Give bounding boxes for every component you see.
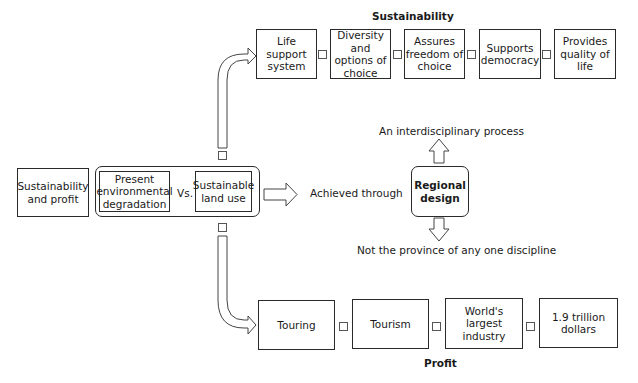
connector-square	[318, 50, 327, 59]
connector-square	[526, 322, 535, 331]
connector-square-upper	[218, 151, 227, 160]
box-sustainability-and-profit: Sustainability and profit	[17, 168, 89, 217]
box-diversity-options: Diversity and options of choice	[330, 29, 391, 79]
sustainability-title: Sustainability	[372, 10, 454, 22]
box-present-environmental-degradation: Present environmental degradation	[99, 171, 170, 212]
box-provides-quality-of-life: Provides quality of life	[554, 29, 616, 79]
box-regional-design: Regional design	[411, 166, 469, 217]
down-arrow-icon	[429, 218, 449, 241]
box-tourism: Tourism	[352, 299, 429, 349]
curved-arrow-down-icon	[218, 236, 256, 334]
connector-square	[432, 322, 441, 331]
interdisciplinary-label: An interdisciplinary process	[379, 125, 524, 137]
box-sustainable-land-use: Sustainable land use	[195, 171, 252, 212]
box-life-support-system: Life support system	[256, 29, 317, 79]
box-assures-freedom: Assures freedom of choice	[404, 29, 465, 79]
curved-arrow-up-icon	[218, 48, 256, 148]
connector-square-lower	[218, 223, 227, 232]
achieved-through-label: Achieved through	[310, 187, 403, 199]
connector-square	[542, 50, 551, 59]
box-trillion-dollars: 1.9 trillion dollars	[539, 298, 618, 348]
connector-square	[393, 50, 402, 59]
connector-square	[467, 50, 476, 59]
profit-title: Profit	[424, 357, 457, 369]
up-arrow-icon	[429, 139, 449, 163]
connector-square	[339, 322, 348, 331]
box-touring: Touring	[258, 300, 335, 350]
versus-label: Vs.	[177, 187, 193, 199]
box-worlds-largest-industry: World's largest industry	[445, 298, 523, 349]
box-supports-democracy: Supports democracy	[479, 29, 541, 79]
right-arrow-icon	[264, 183, 297, 206]
not-province-label: Not the province of any one discipline	[357, 244, 556, 256]
